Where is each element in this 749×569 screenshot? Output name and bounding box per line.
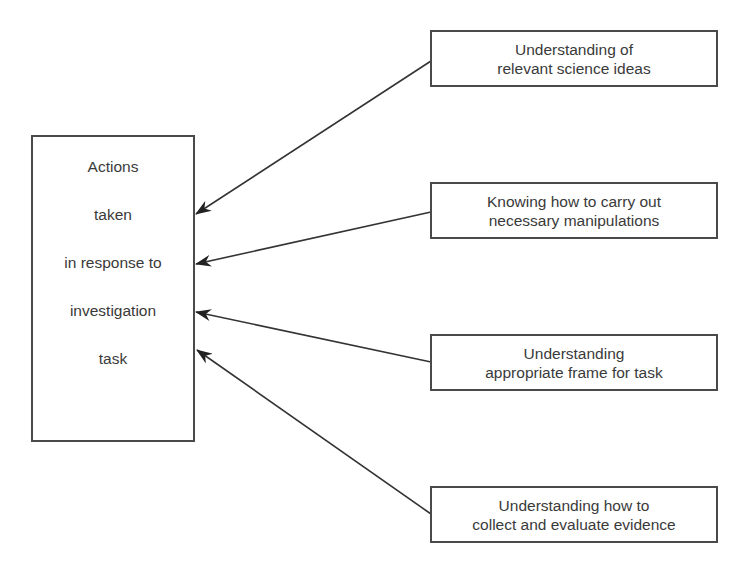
factor-label-line: Understanding of — [515, 40, 633, 59]
central-node-actions: Actions taken in response to investigati… — [31, 135, 195, 442]
factor-node-science-ideas: Understanding of relevant science ideas — [430, 30, 718, 87]
factor-label-line: Understanding — [524, 344, 625, 363]
factor-label-line: appropriate frame for task — [485, 363, 662, 382]
factor-node-evidence: Understanding how to collect and evaluat… — [430, 486, 718, 543]
factor-label-line: Knowing how to carry out — [487, 192, 661, 211]
central-node-line: in response to — [64, 255, 161, 271]
central-node-line: investigation — [70, 303, 156, 319]
factor-label-line: relevant science ideas — [497, 59, 650, 78]
factor-label-line: necessary manipulations — [489, 211, 660, 230]
central-node-line: task — [99, 351, 127, 367]
factor-node-manipulations: Knowing how to carry out necessary manip… — [430, 182, 718, 239]
arrow-manipulations — [196, 212, 431, 264]
factor-node-frame: Understanding appropriate frame for task — [430, 334, 718, 391]
arrow-science-ideas — [196, 61, 431, 214]
central-node-line: Actions — [88, 159, 139, 175]
factor-label-line: Understanding how to — [499, 496, 650, 515]
arrow-evidence — [197, 350, 431, 514]
central-node-line: taken — [94, 207, 132, 223]
diagram-canvas: Actions taken in response to investigati… — [0, 0, 749, 569]
arrow-frame — [196, 312, 431, 362]
factor-label-line: collect and evaluate evidence — [472, 515, 675, 534]
